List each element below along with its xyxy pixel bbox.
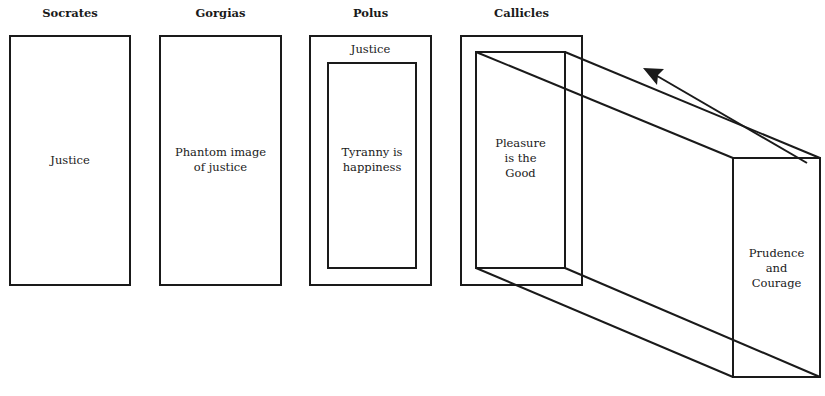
callicles-back-label: Prudence and Courage	[733, 246, 820, 291]
arrow-shaft	[652, 73, 807, 163]
polus-outer-label: Justice	[310, 42, 431, 57]
arrow-head-icon	[643, 68, 664, 85]
socrates-label: Justice	[10, 153, 130, 168]
gorgias-label: Phantom image of justice	[160, 145, 281, 175]
header-callicles: Callicles	[461, 6, 582, 20]
header-polus: Polus	[310, 6, 431, 20]
polus-inner-label: Tyranny is happiness	[328, 145, 416, 175]
diagram-canvas	[0, 0, 825, 396]
callicles-front-label: Pleasure is the Good	[476, 136, 565, 181]
header-gorgias: Gorgias	[160, 6, 281, 20]
header-socrates: Socrates	[10, 6, 130, 20]
